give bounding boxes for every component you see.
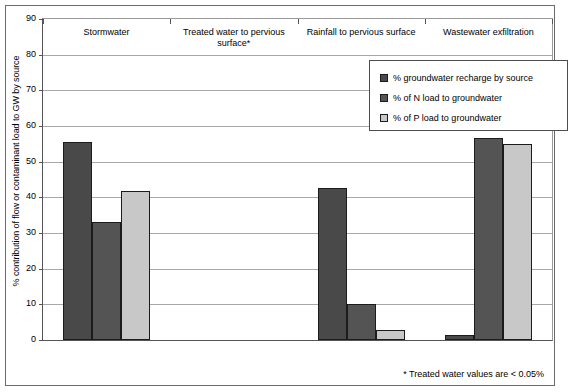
legend-swatch-icon bbox=[380, 94, 388, 102]
y-tick-label: 20 bbox=[8, 264, 36, 273]
chart-frame: % contribution of flow or contaminant lo… bbox=[5, 5, 555, 386]
bar bbox=[318, 188, 347, 340]
y-tick-label: 60 bbox=[8, 121, 36, 130]
y-tick-mark bbox=[39, 162, 43, 163]
legend-item[interactable]: % of P load to groundwater bbox=[380, 108, 567, 127]
legend-item[interactable]: % groundwater recharge by source bbox=[380, 68, 567, 87]
y-tick-mark bbox=[39, 340, 43, 341]
legend-item[interactable]: % of N load to groundwater bbox=[380, 88, 567, 107]
y-tick-label: 30 bbox=[8, 228, 36, 237]
footnote: * Treated water values are < 0.05% bbox=[403, 369, 544, 379]
legend-label: % of P load to groundwater bbox=[393, 113, 501, 123]
plot-area: 9080706050403020100 StormwaterTreated wa… bbox=[42, 18, 553, 341]
y-tick-mark bbox=[39, 304, 43, 305]
x-tick-mark bbox=[43, 19, 44, 24]
x-tick-mark bbox=[298, 19, 299, 24]
x-axis-category-label: Stormwater bbox=[43, 27, 170, 38]
chart-legend: % groundwater recharge by source% of N l… bbox=[369, 60, 568, 131]
y-tick-mark bbox=[39, 126, 43, 127]
y-tick-label: 50 bbox=[8, 157, 36, 166]
legend-swatch-icon bbox=[380, 114, 388, 122]
y-tick-label: 90 bbox=[8, 14, 36, 23]
bar bbox=[503, 144, 532, 340]
y-tick-mark bbox=[39, 233, 43, 234]
y-tick-mark bbox=[39, 269, 43, 270]
bar bbox=[445, 335, 474, 340]
bar bbox=[92, 222, 121, 340]
y-tick-label: 70 bbox=[8, 85, 36, 94]
y-tick-label: 0 bbox=[8, 335, 36, 344]
bar bbox=[347, 304, 376, 340]
x-axis-category-label: Treated water to pervious surface* bbox=[170, 27, 297, 49]
y-tick-label: 40 bbox=[8, 192, 36, 201]
bar bbox=[474, 138, 503, 340]
y-tick-mark bbox=[39, 197, 43, 198]
x-axis-category-label: Wastewater exfiltration bbox=[425, 27, 552, 38]
bar bbox=[121, 191, 150, 340]
y-tick-mark bbox=[39, 90, 43, 91]
x-tick-mark bbox=[425, 19, 426, 24]
y-tick-label: 80 bbox=[8, 50, 36, 59]
x-tick-mark bbox=[552, 19, 553, 24]
legend-label: % of N load to groundwater bbox=[393, 93, 502, 103]
x-axis-category-label: Rainfall to pervious surface bbox=[298, 27, 425, 38]
y-tick-label: 10 bbox=[8, 299, 36, 308]
y-tick-mark bbox=[39, 55, 43, 56]
legend-label: % groundwater recharge by source bbox=[393, 73, 533, 83]
bar bbox=[376, 330, 405, 340]
gridline bbox=[43, 55, 552, 56]
x-tick-mark bbox=[170, 19, 171, 24]
bar bbox=[63, 142, 92, 340]
legend-swatch-icon bbox=[380, 74, 388, 82]
